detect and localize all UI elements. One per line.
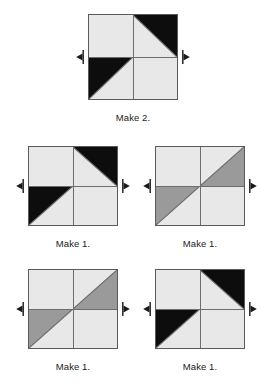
quadrant-top-left [29, 270, 73, 309]
quadrant-bottom-right [73, 309, 117, 348]
quadrant-bottom-left [29, 309, 73, 348]
seam-direction-arrow-left-icon [73, 49, 85, 65]
seam-direction-arrow-left-icon [13, 301, 25, 317]
quadrant-top-left [156, 147, 200, 186]
quadrant-bottom-left [29, 186, 73, 225]
seam-direction-arrow-right-icon [248, 301, 260, 317]
block-middle-right [155, 146, 245, 226]
block-caption: Make 1. [137, 238, 263, 250]
quadrant-top-right [200, 270, 244, 309]
block-middle-left [28, 146, 118, 226]
quadrant-bottom-right [73, 186, 117, 225]
seam-direction-arrow-left-icon [13, 178, 25, 194]
quadrant-bottom-left [89, 57, 133, 99]
block-caption: Make 1. [10, 238, 136, 250]
quadrant-top-right [73, 270, 117, 309]
block-caption: Make 1. [137, 361, 263, 373]
quadrant-bottom-right [200, 186, 244, 225]
quadrant-top-right [133, 15, 177, 57]
quadrant-top-left [29, 147, 73, 186]
seam-direction-arrow-right-icon [121, 301, 133, 317]
quadrant-bottom-left [156, 309, 200, 348]
block-caption: Make 2. [70, 112, 196, 124]
block-caption: Make 1. [10, 361, 136, 373]
diagram-canvas: Make 2.Make 1.Make 1.Make 1.Make 1. [0, 0, 266, 389]
seam-direction-arrow-right-icon [181, 49, 193, 65]
block-top [88, 14, 178, 100]
seam-direction-arrow-right-icon [121, 178, 133, 194]
seam-direction-arrow-left-icon [140, 301, 152, 317]
block-bottom-left [28, 269, 118, 349]
quadrant-top-right [73, 147, 117, 186]
quadrant-top-right [200, 147, 244, 186]
quadrant-bottom-right [200, 309, 244, 348]
seam-direction-arrow-left-icon [140, 178, 152, 194]
block-bottom-right [155, 269, 245, 349]
quadrant-top-left [89, 15, 133, 57]
quadrant-bottom-right [133, 57, 177, 99]
quadrant-top-left [156, 270, 200, 309]
seam-direction-arrow-right-icon [248, 178, 260, 194]
quadrant-bottom-left [156, 186, 200, 225]
